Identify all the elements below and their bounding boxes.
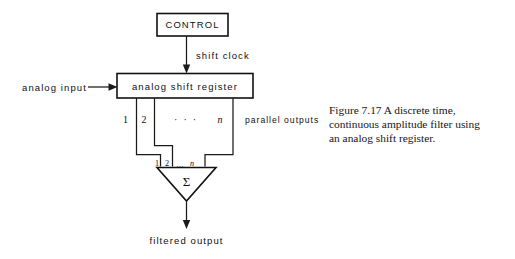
filtered-output-label: filtered output [149,235,223,246]
tap-n-wire [205,98,233,167]
tap-label-ellipsis: · · · [174,114,198,125]
figure-page: CONTROL shift clock analog input analog … [0,0,515,259]
parallel-outputs-label: parallel outputs [245,115,319,125]
shift-clock-label: shift clock [196,50,250,61]
analog-input-arrowhead [109,83,118,91]
caption-line-2: continuous amplitude filter using [329,117,504,131]
analog-input-label: analog input [22,82,87,93]
tap-label-2: 2 [142,114,147,125]
summer-tap-label-n: n [190,159,194,168]
tap-2-wire [155,98,173,167]
caption-line-1: Figure 7.17 A discrete time, [329,103,504,117]
tap-label-1: 1 [123,114,128,125]
figure-caption: Figure 7.17 A discrete time, continuous … [329,103,504,146]
filtered-output-arrowhead [183,220,190,229]
summer-tap-label-2: 2 [165,159,169,168]
tap-label-n: n [218,114,223,125]
shift-clock-arrowhead [183,65,190,74]
summer-tap-label-1: 1 [155,159,159,168]
control-block-label: CONTROL [165,19,219,30]
caption-line-3: an analog shift register. [329,131,504,145]
sigma-symbol: Σ [183,174,191,189]
analog-shift-register-label: analog shift register [132,81,238,92]
tap-1-wire [137,98,161,167]
